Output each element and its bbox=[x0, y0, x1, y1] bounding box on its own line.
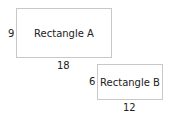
rectangle-a-width-label: 18 bbox=[57, 61, 70, 71]
rectangle-b-width-label: 12 bbox=[123, 103, 136, 113]
rectangle-b: Rectangle B bbox=[97, 64, 163, 100]
rectangle-b-label: Rectangle B bbox=[100, 77, 160, 88]
rectangle-a-height-label: 9 bbox=[8, 29, 14, 39]
rectangle-a: Rectangle A bbox=[16, 8, 112, 58]
rectangle-b-height-label: 6 bbox=[89, 77, 95, 87]
rectangle-a-label: Rectangle A bbox=[34, 28, 94, 39]
